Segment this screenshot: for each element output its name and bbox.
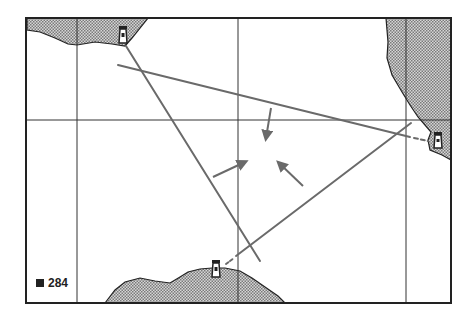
bearing-line-east — [118, 65, 410, 137]
bearing-line-north — [126, 46, 260, 261]
bearing-line-east-dash — [414, 138, 428, 141]
land-south — [105, 268, 285, 303]
bearing-lines — [118, 46, 428, 264]
arrow-right-up-icon — [213, 162, 245, 177]
figure-number-text: 284 — [48, 276, 68, 290]
arrow-left-up-icon — [279, 163, 303, 186]
lighthouse-north-icon — [119, 26, 127, 43]
figure-number: 284 — [36, 276, 68, 290]
square-bullet-icon — [36, 279, 44, 287]
position-fix-diagram — [0, 0, 475, 321]
bearing-line-south — [236, 123, 411, 256]
land-north — [27, 18, 148, 46]
bearing-line-south-dash — [226, 258, 234, 264]
arrow-down-icon — [266, 108, 271, 138]
lighthouse-south-icon — [212, 260, 220, 277]
lighthouse-east-icon — [434, 132, 442, 148]
